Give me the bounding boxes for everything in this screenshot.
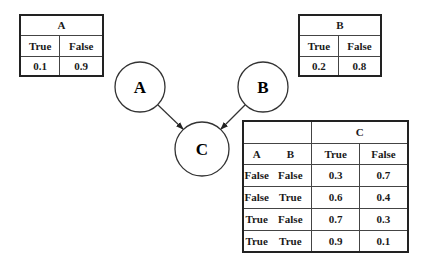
cpt-c-row-true: 0.6 [312,186,360,208]
cpt-c-row-false: 0.7 [359,164,408,186]
cpt-c-parent-a: A [243,143,269,164]
cpt-c-row-true: 0.3 [312,164,360,186]
cpt-table-c: C A B True False False False 0.3 0.7 Fal… [242,120,409,253]
cpt-c-row-a: True [243,208,269,230]
node-c-label: C [196,140,208,159]
cpt-a-value-false: 0.9 [60,56,103,76]
cpt-c-row-a: False [243,186,269,208]
cpt-c-row-b: False [269,208,312,230]
cpt-c-title: C [312,121,408,143]
cpt-b-header-false: False [338,35,381,56]
cpt-a-header-false: False [60,35,103,56]
cpt-b-header-true: True [299,35,338,56]
node-a-label: A [134,78,147,97]
cpt-c-row-b: True [269,230,312,252]
cpt-c-row-b: False [269,164,312,186]
edge-a-to-c [158,105,183,129]
cpt-a-title: A [20,15,103,35]
cpt-c-header-false: False [359,143,408,164]
node-b-label: B [257,78,268,97]
cpt-c-row-false: 0.1 [359,230,408,252]
cpt-c-corner [243,121,312,143]
cpt-c-row-false: 0.4 [359,186,408,208]
cpt-b-title: B [299,15,381,35]
cpt-a-value-true: 0.1 [20,56,60,76]
cpt-a-header-true: True [20,35,60,56]
cpt-c-row-a: False [243,164,269,186]
table-row: True False 0.7 0.3 [243,208,408,230]
cpt-c-row-true: 0.7 [312,208,360,230]
node-b[interactable]: B [238,62,288,112]
cpt-b-value-false: 0.8 [338,56,381,76]
cpt-c-row-true: 0.9 [312,230,360,252]
cpt-c-header-true: True [312,143,360,164]
cpt-b-value-true: 0.2 [299,56,338,76]
cpt-c-row-a: True [243,230,269,252]
table-row: False True 0.6 0.4 [243,186,408,208]
cpt-c-parent-b: B [269,143,312,164]
node-a[interactable]: A [115,62,165,112]
table-row: False False 0.3 0.7 [243,164,408,186]
table-row: True True 0.9 0.1 [243,230,408,252]
cpt-c-row-false: 0.3 [359,208,408,230]
node-c[interactable]: C [175,122,229,176]
cpt-table-a: A True False 0.1 0.9 [19,14,104,77]
cpt-table-b: B True False 0.2 0.8 [298,14,382,77]
cpt-c-row-b: True [269,186,312,208]
